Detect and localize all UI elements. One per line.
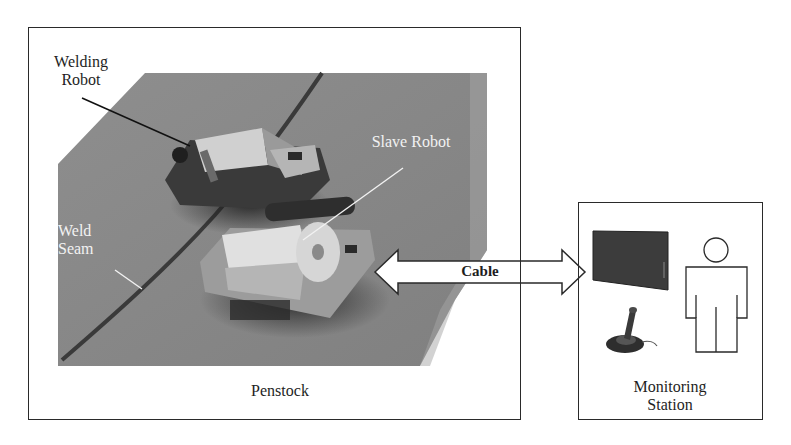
cable-label: Cable	[440, 262, 520, 280]
slave-robot-label: Slave Robot	[346, 133, 476, 151]
monitoring-station-label: Monitoring Station	[585, 378, 755, 414]
welding-robot-label: Welding Robot	[36, 53, 126, 89]
weld-seam-label: Weld Seam	[58, 222, 122, 258]
penstock-label: Penstock	[210, 382, 350, 400]
